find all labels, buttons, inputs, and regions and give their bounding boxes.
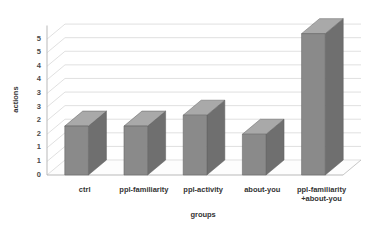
bar-2 xyxy=(183,100,225,175)
y-tick-label: 5 xyxy=(27,48,41,56)
y-tick-label: 4 xyxy=(27,62,41,70)
left-wall xyxy=(47,11,65,176)
y-tick-label: 0 xyxy=(27,171,41,179)
y-tick-label: 3 xyxy=(27,89,41,97)
y-tick-label: 1 xyxy=(27,143,41,151)
y-tick-label: 2 xyxy=(27,116,41,124)
bar-chart: 01122334455 ctrlppl-familiarityppl-activ… xyxy=(0,0,384,233)
bar-front-face xyxy=(65,126,89,175)
x-axis-title: groups xyxy=(173,210,233,219)
bar-front-face xyxy=(302,34,326,175)
bar-0 xyxy=(65,111,107,175)
bar-4 xyxy=(302,19,344,175)
bar-1 xyxy=(124,111,166,175)
y-tick-label: 5 xyxy=(27,35,41,43)
bar-front-face xyxy=(183,115,207,175)
bar-front-face xyxy=(242,134,266,175)
bar-side-face xyxy=(325,19,343,175)
bar-front-face xyxy=(124,126,148,175)
y-axis-title: actions xyxy=(11,80,20,120)
x-category-label: ppl-familiarity +about-you xyxy=(285,185,359,203)
y-tick-label: 4 xyxy=(27,75,41,83)
y-tick-label: 2 xyxy=(27,130,41,138)
y-tick-label: 1 xyxy=(27,157,41,165)
y-tick-label: 3 xyxy=(27,103,41,111)
